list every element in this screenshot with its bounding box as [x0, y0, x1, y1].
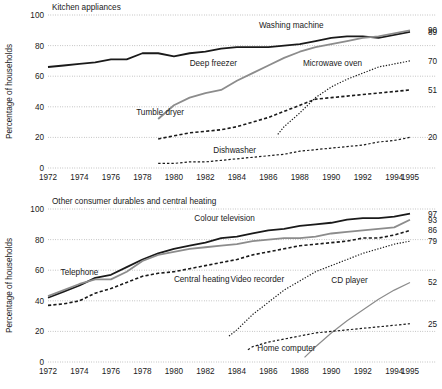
y-tick-label: 0 — [39, 164, 44, 173]
series-line — [158, 30, 410, 119]
panel-title: Kitchen appliances — [52, 3, 121, 12]
y-tick-label: 0 — [39, 358, 44, 367]
x-axis-tick-labels: 1972197419761978198019821984198619881990… — [39, 173, 420, 182]
series-end-value: 52 — [428, 278, 438, 287]
series-end-value: 86 — [428, 226, 438, 235]
x-tick-label: 1976 — [102, 173, 121, 182]
y-tick-label: 20 — [35, 327, 45, 336]
series-lines — [48, 30, 410, 163]
series-line — [305, 282, 410, 357]
series-line — [278, 61, 410, 134]
series-label: Washing machine — [259, 21, 324, 30]
x-tick-label: 1982 — [196, 173, 215, 182]
y-axis-title: Percentage of households — [5, 44, 14, 139]
x-tick-label: 1990 — [322, 173, 341, 182]
series-label: Home computer — [257, 344, 316, 353]
y-tick-label: 60 — [35, 266, 45, 275]
x-tick-label: 1976 — [102, 367, 121, 376]
x-axis-tick-labels: 1972197419761978198019821984198619881990… — [39, 367, 420, 376]
series-end-value: 25 — [428, 320, 438, 329]
x-tick-label: 1984 — [228, 173, 247, 182]
series-label: Dishwasher — [213, 146, 256, 155]
series-label: Deep freezer — [190, 59, 238, 68]
x-tick-label: 1988 — [291, 367, 310, 376]
x-tick-label: 1995 — [401, 173, 420, 182]
series-end-value: 51 — [428, 86, 438, 95]
series-annotations: Washing machineDeep freezerTumble dryerM… — [136, 21, 362, 155]
series-end-value: 20 — [428, 133, 438, 142]
x-tick-label: 1992 — [354, 173, 373, 182]
end-value-labels: 979386795225 — [428, 210, 438, 329]
y-tick-label: 40 — [35, 297, 45, 306]
x-tick-label: 1995 — [401, 367, 420, 376]
series-end-value: 90 — [428, 26, 438, 35]
series-line — [158, 90, 410, 139]
series-label: Telephone — [61, 268, 99, 277]
x-tick-label: 1980 — [165, 173, 184, 182]
series-label: CD player — [331, 276, 368, 285]
y-axis-title: Percentage of households — [5, 238, 14, 333]
series-end-value: 79 — [428, 237, 438, 246]
x-tick-label: 1982 — [196, 367, 215, 376]
y-axis-tick-labels: 020406080100 — [30, 205, 44, 367]
y-tick-label: 100 — [30, 205, 44, 214]
gridlines — [48, 209, 436, 362]
series-lines — [48, 214, 410, 358]
panel-title: Other consumer durables and central heat… — [52, 197, 217, 206]
y-tick-label: 80 — [35, 236, 45, 245]
y-tick-label: 100 — [30, 11, 44, 20]
other-durables-svg: 0204060801001972197419761978198019821984… — [0, 195, 442, 389]
kitchen-appliances-svg: 0204060801001972197419761978198019821984… — [0, 0, 442, 195]
y-tick-label: 60 — [35, 72, 45, 81]
y-tick-label: 80 — [35, 42, 45, 51]
series-end-value: 93 — [428, 216, 438, 225]
series-line — [229, 241, 410, 336]
x-tick-label: 1992 — [354, 367, 373, 376]
y-tick-label: 20 — [35, 133, 45, 142]
series-label: Central heating — [174, 275, 230, 284]
series-label: Tumble dryer — [136, 108, 184, 117]
x-tick-label: 1978 — [133, 367, 152, 376]
x-tick-label: 1978 — [133, 173, 152, 182]
x-tick-label: 1974 — [70, 173, 89, 182]
x-tick-label: 1972 — [39, 173, 58, 182]
series-line — [158, 137, 410, 163]
x-tick-label: 1988 — [291, 173, 310, 182]
kitchen-appliances-chart-panel: 0204060801001972197419761978198019821984… — [0, 0, 442, 195]
x-tick-label: 1990 — [322, 367, 341, 376]
end-value-labels: 8990517020 — [428, 26, 438, 142]
series-end-value: 70 — [428, 57, 438, 66]
x-tick-label: 1986 — [259, 173, 278, 182]
series-line — [48, 230, 410, 305]
y-tick-label: 40 — [35, 103, 45, 112]
series-label: Video recorder — [231, 275, 285, 284]
series-label: Microwave oven — [303, 59, 363, 68]
y-axis-tick-labels: 020406080100 — [30, 11, 44, 173]
x-tick-label: 1974 — [70, 367, 89, 376]
x-tick-label: 1986 — [259, 367, 278, 376]
other-durables-chart-panel: 0204060801001972197419761978198019821984… — [0, 195, 442, 389]
series-label: Colour television — [194, 214, 255, 223]
x-tick-label: 1972 — [39, 367, 58, 376]
x-tick-label: 1980 — [165, 367, 184, 376]
x-tick-label: 1984 — [228, 367, 247, 376]
